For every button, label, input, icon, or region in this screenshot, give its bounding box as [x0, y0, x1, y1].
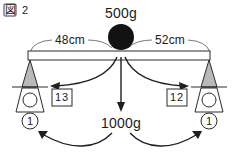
left-fulcrum-wedge — [22, 60, 38, 87]
left-dimension-leader — [30, 40, 52, 52]
figure-container: 図 2 48cm 52cm 500g — [0, 0, 238, 155]
figure-title-kanji: 図 — [5, 4, 16, 16]
ball-mass-label: 500g — [105, 5, 137, 21]
total-force-label: 1000g — [101, 115, 141, 131]
right-answer-box-label: 12 — [170, 91, 184, 103]
right-support-marker-label: 1 — [206, 115, 212, 127]
left-support-hole — [23, 93, 37, 107]
left-support-marker-label: 1 — [27, 115, 33, 127]
left-answer-box-label: 13 — [55, 91, 69, 103]
ball-mass-500g — [108, 24, 134, 50]
right-distance-label: 52cm — [155, 33, 185, 47]
figure-title-number: 2 — [22, 4, 28, 16]
right-fulcrum-wedge — [201, 60, 217, 87]
arrow-to-left-marker — [44, 133, 112, 146]
arrow-to-right-marker-head — [192, 131, 202, 139]
arrow-to-left-marker-head — [38, 131, 48, 139]
lever-beam — [28, 51, 210, 60]
left-distance-label: 48cm — [55, 33, 85, 47]
right-dimension-leader — [188, 40, 210, 52]
left-dimension-leader-inner — [88, 40, 112, 48]
arrow-to-left-box — [56, 57, 117, 86]
arrow-to-right-box — [125, 57, 183, 86]
right-support-hole — [202, 93, 216, 107]
arrow-total-force-head — [117, 102, 125, 112]
arrow-to-right-marker — [130, 133, 196, 146]
lever-diagram: 図 2 48cm 52cm 500g — [0, 0, 238, 155]
